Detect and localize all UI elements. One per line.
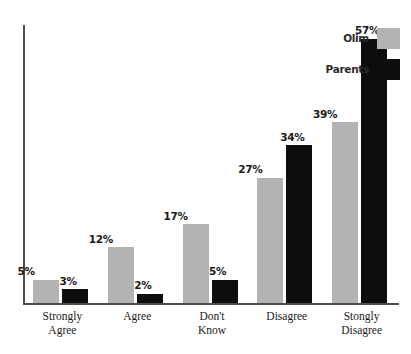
legend-item-olim[interactable]: Olim <box>296 27 400 49</box>
bar-value-label: 5% <box>6 266 46 277</box>
bar-value-label: 2% <box>123 280 163 291</box>
bar-olim-3[interactable] <box>257 178 283 303</box>
bar-value-label: 39% <box>305 109 345 120</box>
chart-legend: OlimParents <box>296 27 400 89</box>
bar-value-label: 27% <box>230 164 270 175</box>
category-label-line: Disagree <box>317 323 407 337</box>
bar-value-label: 12% <box>81 234 121 245</box>
legend-label: Olim <box>343 32 369 44</box>
category-label-line: Stongly <box>317 309 407 323</box>
legend-swatch-icon <box>377 28 400 49</box>
legend-item-parents[interactable]: Parents <box>296 58 400 80</box>
bar-value-label: 34% <box>272 132 312 143</box>
category-label-line: Know <box>167 323 257 337</box>
bar-value-label: 3% <box>48 276 88 287</box>
x-axis-category-labels: StronglyAgreeAgreeDon'tKnowDisagreeStong… <box>25 309 399 351</box>
x-axis-line <box>23 303 399 305</box>
bar-parents-1[interactable] <box>137 294 163 303</box>
bar-group: 12%2% <box>100 25 175 303</box>
bar-parents-3[interactable] <box>286 145 312 303</box>
bar-olim-4[interactable] <box>332 122 358 303</box>
bar-olim-2[interactable] <box>183 224 209 303</box>
category-label-4: StonglyDisagree <box>317 309 407 337</box>
legend-swatch-icon <box>377 59 400 80</box>
bar-chart: 5%3%12%2%17%5%27%34%39%57% StronglyAgree… <box>0 0 411 354</box>
bar-value-label: 5% <box>198 266 238 277</box>
bar-parents-0[interactable] <box>62 289 88 303</box>
bar-parents-2[interactable] <box>212 280 238 303</box>
bar-olim-1[interactable] <box>108 247 134 303</box>
legend-label: Parents <box>326 63 369 75</box>
category-label-line: Agree <box>17 323 107 337</box>
bar-value-label: 17% <box>156 211 196 222</box>
bar-group: 5%3% <box>25 25 100 303</box>
